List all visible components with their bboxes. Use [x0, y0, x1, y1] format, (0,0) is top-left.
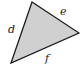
side-label-d: d [8, 23, 15, 36]
side-label-e: e [60, 5, 67, 18]
side-label-f: f [44, 52, 51, 65]
triangle-diagram: d e f [0, 0, 80, 67]
